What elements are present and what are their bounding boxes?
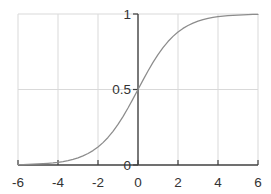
- y-tick-label: 0.5: [112, 82, 131, 97]
- x-tick-label: -4: [52, 175, 64, 190]
- x-tick-label: -2: [92, 175, 104, 190]
- x-tick-label: 6: [254, 175, 262, 190]
- y-tick-label: 0: [123, 158, 131, 173]
- x-tick-label: -6: [12, 175, 24, 190]
- x-tick-label: 2: [174, 175, 182, 190]
- x-tick-label: 4: [214, 175, 222, 190]
- tick-labels: -6-4-2024600.51: [12, 7, 262, 191]
- x-tick-label: 0: [134, 175, 142, 190]
- y-tick-label: 1: [123, 7, 131, 22]
- chart: -6-4-2024600.51: [0, 0, 271, 194]
- sigmoid-plot: -6-4-2024600.51: [0, 0, 271, 194]
